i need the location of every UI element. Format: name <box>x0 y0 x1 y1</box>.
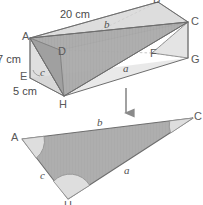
prism-vertex-C: C <box>191 16 199 27</box>
prism-vertex-A: A <box>22 31 29 42</box>
triangle-side-label-b: b <box>97 117 103 128</box>
prism-vertex-G: G <box>191 54 200 65</box>
prism-vertex-H: H <box>59 99 67 110</box>
prism-side-label-b: b <box>104 19 110 30</box>
prism-vertex-D: D <box>58 46 66 57</box>
prism-vertex-F: F <box>150 48 157 59</box>
dimension-length: 20 cm <box>60 9 90 20</box>
triangle-side-label-a: a <box>124 165 130 176</box>
planar-triangle-group <box>22 118 193 199</box>
dimension-depth: 5 cm <box>13 86 37 97</box>
angle-arc-C <box>169 118 193 133</box>
triangle-vertex-A: A <box>11 132 18 143</box>
triangle-vertex-C: C <box>194 111 202 122</box>
triangle-side-label-c: c <box>40 170 45 181</box>
planar-triangle-ACH <box>22 118 193 199</box>
geometry-figure <box>0 0 203 205</box>
dimension-height: 7 cm <box>0 54 21 65</box>
prism-side-label-c: c <box>40 67 45 78</box>
prism-vertex-E: E <box>20 71 27 82</box>
prism-group <box>30 2 188 96</box>
prism-side-label-a: a <box>123 63 129 74</box>
triangle-vertex-H: H <box>64 200 72 205</box>
prism-vertex-B: B <box>153 0 160 5</box>
